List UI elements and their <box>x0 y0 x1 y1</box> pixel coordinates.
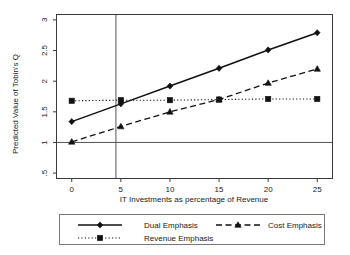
x-axis-title: IT Investments as percentage of Revenue <box>120 195 269 204</box>
y-tick-label: 1 <box>40 140 49 145</box>
data-point-square <box>69 98 74 103</box>
y-axis-title: Predicted Value of Tobin's Q <box>11 54 20 154</box>
x-tick-label: 0 <box>70 185 75 194</box>
y-tick-label: 3 <box>40 17 49 22</box>
x-tick-label: 20 <box>264 185 273 194</box>
y-tick-label: 2.5 <box>40 44 49 56</box>
x-tick-label: 15 <box>215 185 224 194</box>
chart-background <box>0 0 350 255</box>
data-point-square <box>118 98 123 103</box>
x-tick-label: 10 <box>165 185 174 194</box>
y-tick-label: .5 <box>40 169 49 176</box>
data-point-square <box>216 97 221 102</box>
chart-figure: Predicted Value of Tobin's Q .511.522.53… <box>0 0 350 255</box>
legend-label: Revenue Emphasis <box>144 234 213 243</box>
data-point-square <box>266 96 271 101</box>
legend-marker-square <box>97 235 102 240</box>
x-tick-label: 25 <box>313 185 322 194</box>
legend-label: Dual Emphasis <box>144 221 198 230</box>
x-tick-label: 5 <box>119 185 124 194</box>
tobins-q-line-chart: Predicted Value of Tobin's Q .511.522.53… <box>0 0 350 255</box>
y-tick-label: 2 <box>40 78 49 83</box>
data-point-square <box>167 98 172 103</box>
data-point-square <box>315 96 320 101</box>
y-tick-label: 1.5 <box>40 106 49 118</box>
legend-label: Cost Emphasis <box>268 221 322 230</box>
